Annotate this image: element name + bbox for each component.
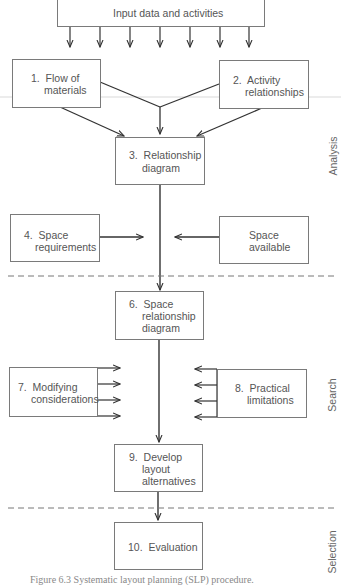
step-5-space-available: Space available bbox=[219, 216, 309, 264]
step-8-practical-limitations: 8. Practical limitations bbox=[217, 369, 307, 418]
step-3-line2: diagram bbox=[142, 162, 180, 174]
step-6-line1: 6. Space bbox=[129, 298, 173, 310]
step-9-develop-layout-alternatives: 9. Develop layout alternatives bbox=[114, 444, 203, 492]
step-4-space-requirements: 4. Space requirements bbox=[10, 214, 100, 262]
step-9-line1: 9. Develop bbox=[129, 451, 182, 463]
step-1-flow-of-materials: 1. Flow of materials bbox=[12, 59, 101, 108]
input-data-label: Input data and activities bbox=[113, 7, 223, 19]
step-5-line1: Space bbox=[249, 229, 279, 241]
step-9-line2: layout bbox=[142, 463, 170, 475]
step-2-line1: 2. Activity bbox=[233, 74, 280, 86]
input-data-box: Input data and activities bbox=[57, 0, 265, 27]
step-6-space-relationship-diagram: 6. Space relationship diagram bbox=[115, 291, 204, 340]
step-4-line1: 4. Space bbox=[24, 229, 68, 241]
step-7-line2: considerations bbox=[31, 393, 99, 405]
step-6-line2: relationship bbox=[142, 310, 196, 322]
step-1-line2: materials bbox=[44, 84, 87, 96]
phase-label-selection: Selection bbox=[326, 524, 338, 580]
step-10-evaluation: 10. Evaluation bbox=[114, 522, 203, 570]
step-7-modifying-considerations: 7. Modifying considerations bbox=[9, 367, 98, 417]
step-8-line1: 8. Practical bbox=[235, 382, 290, 394]
figure-caption: Figure 6.3 Systematic layout planning (S… bbox=[30, 574, 254, 585]
step-3-line1: 3. Relationship bbox=[129, 149, 201, 161]
step-5-line2: available bbox=[249, 241, 290, 253]
step-8-line2: limitations bbox=[247, 394, 294, 406]
step-3-relationship-diagram: 3. Relationship diagram bbox=[115, 137, 205, 185]
step-7-line1: 7. Modifying bbox=[18, 381, 78, 393]
step-6-line3: diagram bbox=[142, 322, 180, 334]
phase-label-search: Search bbox=[326, 375, 338, 415]
step-2-activity-relationships: 2. Activity relationships bbox=[219, 60, 309, 109]
step-10-line1: 10. Evaluation bbox=[128, 541, 197, 553]
phase-label-analysis: Analysis bbox=[327, 131, 339, 181]
step-4-line2: requirements bbox=[35, 241, 96, 253]
step-9-line3: alternatives bbox=[142, 475, 196, 487]
input-arrows bbox=[70, 27, 249, 47]
step-1-line1: 1. Flow of bbox=[31, 72, 79, 84]
step-2-line2: relationships bbox=[245, 86, 304, 98]
